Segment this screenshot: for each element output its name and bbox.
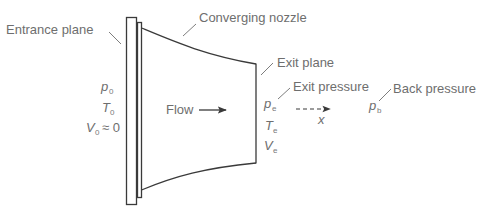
svg-text:0: 0 xyxy=(110,108,115,117)
entrance-plane-label: Entrance plane xyxy=(6,22,93,37)
x-axis-label: x xyxy=(317,112,325,127)
inlet-pressure: p 0 xyxy=(100,79,114,96)
svg-text:p: p xyxy=(263,96,271,111)
converging-nozzle-leader xyxy=(183,24,196,36)
svg-text:e: e xyxy=(273,146,278,155)
exit-plane-label: Exit plane xyxy=(277,55,334,70)
nozzle-bottom-wall xyxy=(142,163,257,190)
svg-text:b: b xyxy=(377,106,382,115)
entrance-plate-outer xyxy=(127,18,137,205)
svg-text:≈ 0: ≈ 0 xyxy=(102,120,120,135)
svg-text:e: e xyxy=(273,126,278,135)
converging-nozzle-diagram: Entrance plane Converging nozzle Exit pl… xyxy=(0,0,492,215)
back-pressure-leader xyxy=(379,89,391,101)
nozzle-top-wall xyxy=(142,28,257,64)
back-pressure-label: Back pressure xyxy=(393,81,476,96)
svg-text:p: p xyxy=(368,98,376,113)
exit-pressure-symbol: p e xyxy=(263,96,277,113)
exit-temperature-symbol: T e xyxy=(265,118,278,135)
entrance-plane-leader xyxy=(109,32,121,44)
inlet-temperature: T 0 xyxy=(102,100,115,117)
converging-nozzle-label: Converging nozzle xyxy=(199,10,307,25)
svg-text:0: 0 xyxy=(95,128,100,137)
exit-pressure-label: Exit pressure xyxy=(293,79,369,94)
exit-pressure-leader xyxy=(278,88,290,99)
flow-label: Flow xyxy=(166,102,194,117)
svg-text:p: p xyxy=(100,79,108,94)
inlet-velocity: V 0 ≈ 0 xyxy=(86,120,120,137)
exit-plane-leader xyxy=(261,63,273,75)
exit-velocity-symbol: V e xyxy=(264,138,278,155)
svg-text:e: e xyxy=(272,104,277,113)
entrance-plate-inner xyxy=(138,23,142,198)
svg-text:0: 0 xyxy=(109,87,114,96)
